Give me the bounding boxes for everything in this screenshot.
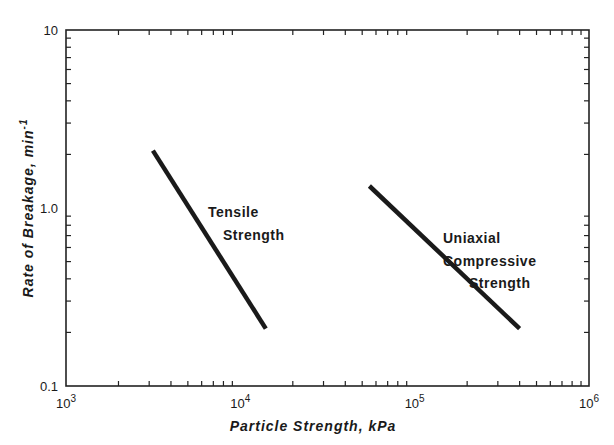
y-tick-label: 1.0: [40, 201, 58, 216]
series-label: Uniaxial: [443, 230, 501, 246]
axis-ticks: [66, 30, 589, 386]
series-annotations: TensileStrengthUniaxialCompressiveStreng…: [208, 204, 536, 291]
x-axis-title: Particle Strength, kPa: [230, 418, 397, 434]
series-label: Strength: [469, 275, 531, 291]
x-tick-label: 105: [405, 393, 425, 411]
plot-border: [66, 30, 589, 386]
tick-labels: 1031041051060.11.010: [40, 23, 600, 411]
x-tick-label: 104: [230, 393, 250, 411]
y-tick-label: 10: [44, 23, 58, 38]
x-tick-label: 106: [579, 393, 599, 411]
plot-frame: [66, 30, 589, 386]
series-label: Compressive: [443, 253, 536, 269]
chart: 1031041051060.11.010 TensileStrengthUnia…: [0, 0, 614, 445]
x-tick-label: 103: [56, 393, 76, 411]
series-label: Strength: [223, 227, 285, 243]
y-axis-title: Rate of Breakage, min-1: [18, 119, 36, 298]
series-label: Tensile: [208, 204, 259, 220]
y-tick-label: 0.1: [40, 379, 58, 394]
